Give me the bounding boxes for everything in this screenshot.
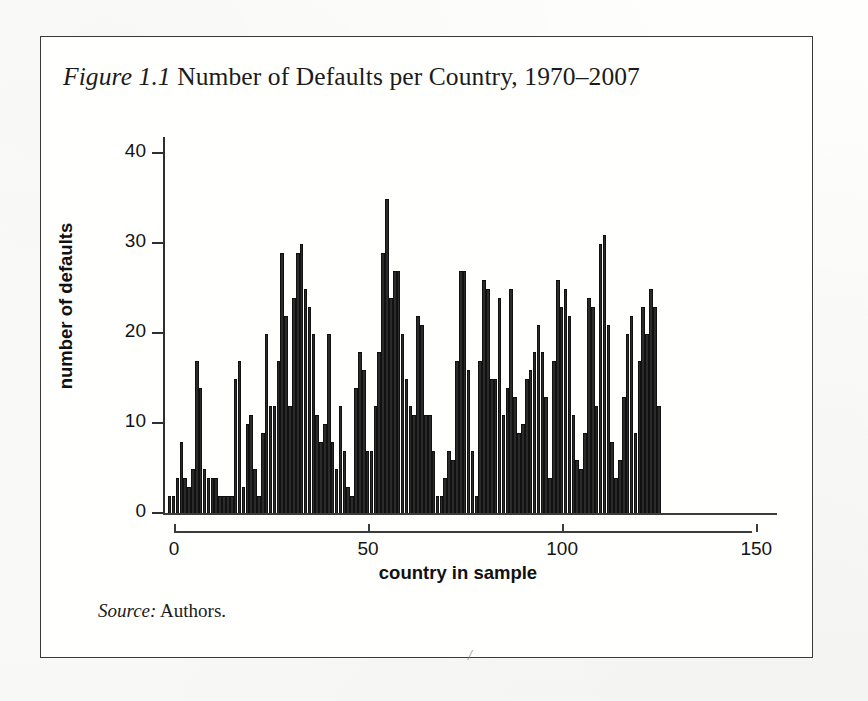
x-axis-tick-label: 100 [532, 538, 592, 560]
y-axis-tick [152, 152, 163, 154]
x-axis-tick [368, 524, 370, 532]
y-axis-tick-label: 40 [100, 140, 146, 162]
x-axis-title: country in sample [163, 562, 753, 584]
figure-title-text: Number of Defaults per Country, 1970–200… [171, 62, 640, 91]
page-canvas: Figure 1.1 Number of Defaults per Countr… [0, 0, 868, 701]
bars-layer [164, 136, 754, 514]
y-axis-title: number of defaults [55, 176, 77, 436]
plot-area [164, 136, 754, 514]
y-axis-tick [152, 512, 163, 514]
bar [657, 406, 661, 514]
figure-number: Figure 1.1 [63, 62, 171, 91]
x-axis-tick-label: 0 [144, 538, 204, 560]
y-axis-tick [152, 242, 163, 244]
y-axis-tick-label: 30 [100, 230, 146, 252]
x-axis-tick-label: 50 [338, 538, 398, 560]
x-axis-tick [756, 524, 758, 532]
source-note: Source: Authors. [98, 600, 226, 622]
x-axis-baseline [163, 513, 777, 515]
x-axis-line [174, 531, 752, 533]
source-label: Source: [98, 600, 156, 621]
y-axis-line [163, 137, 165, 515]
x-axis-tick [174, 524, 176, 532]
y-axis-tick [152, 422, 163, 424]
source-text: Authors. [156, 600, 226, 621]
x-axis-tick [562, 524, 564, 532]
y-axis-tick-label: 0 [100, 500, 146, 522]
y-axis-tick-label: 20 [100, 320, 146, 342]
figure-title: Figure 1.1 Number of Defaults per Countr… [63, 62, 763, 92]
y-axis-tick [152, 332, 163, 334]
y-axis-tick-label: 10 [100, 410, 146, 432]
x-axis-tick-label: 150 [726, 538, 786, 560]
scan-stray-mark: / [468, 648, 472, 664]
